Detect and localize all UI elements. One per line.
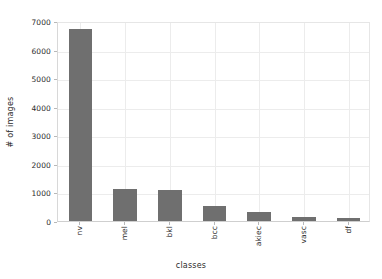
bar-df [337,218,361,221]
gridline-vertical [349,23,350,221]
x-axis-tick-mark [258,222,259,225]
gridline-vertical [259,23,260,221]
y-axis-tick-label: 6000 [32,46,52,55]
x-axis-tick-mark [124,222,125,225]
y-axis-tick-mark [54,79,57,80]
x-axis-tick-label: df [343,226,352,234]
x-axis-tick-label: vasc [298,226,307,243]
bar-bkl [158,190,182,221]
x-axis-tick-label: nv [75,226,84,235]
y-axis-tick-mark [54,108,57,109]
y-axis-title: # of images [6,97,15,148]
bar-nv [69,29,93,221]
gridline-horizontal [58,109,369,110]
y-axis-tick-mark [54,193,57,194]
y-axis-tick-label: 2000 [32,160,52,169]
y-axis-tick-label: 3000 [32,132,52,141]
gridline-vertical [304,23,305,221]
gridline-horizontal [58,80,369,81]
x-axis-title: classes [0,261,382,270]
y-axis-tick-label: 0 [46,218,51,227]
gridline-horizontal [58,166,369,167]
x-axis-tick-mark [348,222,349,225]
y-axis-tick-mark [54,222,57,223]
x-axis-tick-label: mel [120,226,129,240]
y-axis-tick-mark [54,165,57,166]
y-axis-tick-label: 4000 [32,103,52,112]
x-axis-tick-label: akiec [254,226,263,246]
x-axis-tick-label: bkl [164,226,173,238]
gridline-vertical [215,23,216,221]
y-axis-tick-mark [54,136,57,137]
x-axis-tick-mark [169,222,170,225]
y-axis-tick-mark [54,51,57,52]
bar-vasc [292,217,316,221]
x-axis-tick-mark [303,222,304,225]
gridline-horizontal [58,52,369,53]
plot-area [57,22,370,222]
y-axis-tick-label: 1000 [32,189,52,198]
bar-akiec [247,212,271,221]
y-axis-tick-label: 5000 [32,75,52,84]
x-axis-tick-label: bcc [209,226,218,239]
x-axis-tick-mark [79,222,80,225]
gridline-horizontal [58,194,369,195]
gridline-horizontal [58,137,369,138]
bar-bcc [203,206,227,221]
x-axis-tick-mark [214,222,215,225]
y-axis-tick-mark [54,22,57,23]
bar-mel [113,189,137,221]
y-axis-tick-label: 7000 [32,18,52,27]
bar-chart-figure: # of images classes 01000200030004000500… [0,0,382,279]
